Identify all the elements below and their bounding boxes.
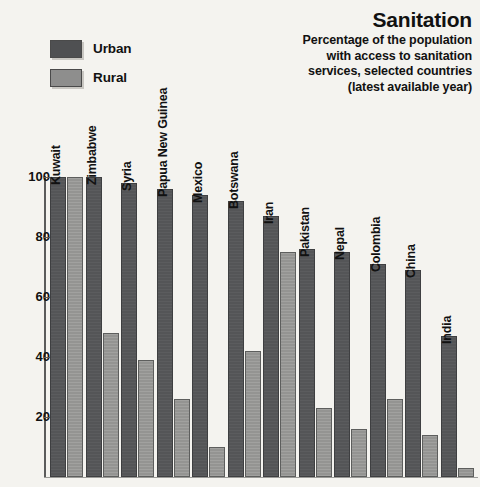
bar-group — [370, 476, 403, 477]
bar-rural[interactable] — [458, 468, 474, 477]
bar-group — [121, 476, 154, 477]
bar-rural[interactable] — [174, 399, 190, 477]
category-label: Kuwait — [49, 145, 63, 185]
bar-urban[interactable] — [157, 189, 173, 477]
bar-group — [263, 476, 296, 477]
bar-urban[interactable] — [370, 264, 386, 477]
bar-rural[interactable] — [316, 408, 332, 477]
category-label: Pakistan — [298, 207, 312, 257]
bar-group — [86, 476, 119, 477]
category-label: Papua New Guinea — [156, 88, 170, 197]
category-label: China — [404, 244, 418, 278]
category-label: Colombia — [369, 217, 383, 272]
bar-rural[interactable] — [209, 447, 225, 477]
bar-rural[interactable] — [245, 351, 261, 477]
bar-group — [299, 476, 332, 477]
bar-urban[interactable] — [50, 177, 66, 477]
bar-rural[interactable] — [103, 333, 119, 477]
bar-urban[interactable] — [192, 195, 208, 477]
category-label: Nepal — [333, 227, 347, 260]
bar-urban[interactable] — [263, 216, 279, 477]
bar-group — [441, 476, 474, 477]
category-label: India — [440, 316, 454, 344]
bar-rural[interactable] — [351, 429, 367, 477]
bar-urban[interactable] — [441, 336, 457, 477]
bar-urban[interactable] — [86, 177, 102, 477]
bar-group — [405, 476, 438, 477]
bar-group — [192, 476, 225, 477]
category-label: Zimbabwe — [85, 125, 99, 185]
bar-group — [157, 476, 190, 477]
bar-rural[interactable] — [387, 399, 403, 477]
bar-urban[interactable] — [121, 183, 137, 477]
bar-rural[interactable] — [67, 177, 83, 477]
bar-urban[interactable] — [334, 252, 350, 477]
category-label: Mexico — [191, 162, 205, 203]
bar-rural[interactable] — [280, 252, 296, 477]
category-label: Iran — [262, 202, 276, 224]
category-label: Botswana — [227, 152, 241, 209]
bar-rural[interactable] — [422, 435, 438, 477]
plot-area: 10080604020 KuwaitZimbabweSyriaPapua New… — [0, 0, 480, 487]
y-axis-line — [44, 176, 46, 478]
bar-urban[interactable] — [299, 249, 315, 477]
sanitation-chart: Sanitation Percentage of the population … — [0, 0, 480, 487]
bar-group — [50, 476, 83, 477]
bar-urban[interactable] — [405, 270, 421, 477]
category-label: Syria — [120, 161, 134, 191]
x-axis-baseline — [44, 477, 478, 478]
bar-group — [334, 476, 367, 477]
bar-group — [228, 476, 261, 477]
bar-urban[interactable] — [228, 201, 244, 477]
bar-rural[interactable] — [138, 360, 154, 477]
